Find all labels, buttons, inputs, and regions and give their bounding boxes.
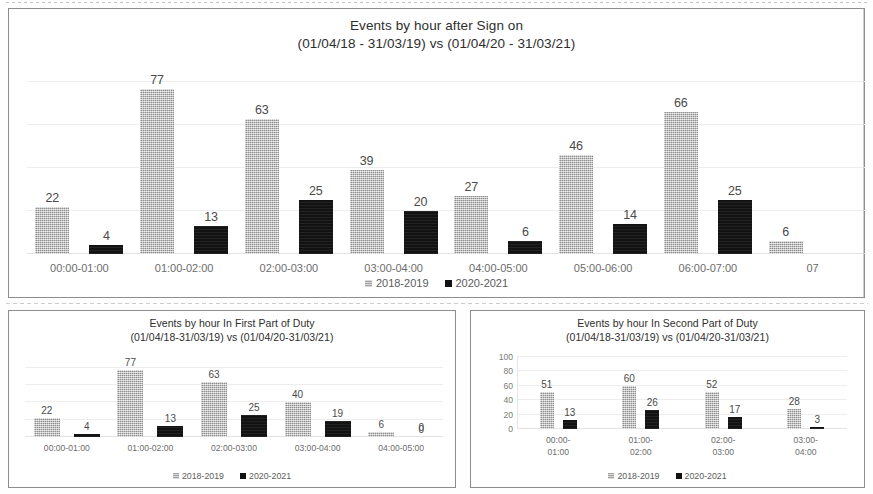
y-axis-tick-label: 0: [491, 424, 513, 434]
bar-series1[interactable]: 77: [140, 89, 174, 254]
clipped-right-edge: [863, 9, 864, 297]
bar-value-label: 4: [84, 421, 90, 432]
bar-value-label: 0: [418, 422, 424, 433]
bar-group: 6325: [192, 359, 276, 437]
bar-series1[interactable]: 39: [350, 170, 384, 254]
scan-artifact-line-middle: [6, 303, 868, 304]
bar-series1[interactable]: 40: [285, 402, 311, 437]
bar-series2[interactable]: 4: [74, 434, 100, 437]
x-axis-category-label: 02:00-03:00: [682, 434, 765, 459]
x-axis-category-label: 03:00-04:00: [341, 262, 446, 274]
bar-value-label: 66: [674, 96, 688, 110]
bar-series1[interactable]: 60: [622, 386, 636, 429]
legend-item-series1[interactable]: 2018-2019: [365, 277, 429, 289]
legend-label-series1: 2018-2019: [182, 471, 224, 481]
x-axis-category-label: 00:00-01:00: [25, 443, 109, 453]
bar-value-label: 3: [814, 414, 820, 425]
bar-series1[interactable]: 51: [540, 392, 554, 429]
bar-series1[interactable]: 63: [245, 119, 279, 254]
bar-value-label: 25: [309, 184, 323, 198]
bar-series2[interactable]: 14: [613, 224, 647, 254]
bar-series1[interactable]: 77: [117, 370, 143, 437]
legend-item-series2[interactable]: 2020-2021: [240, 471, 291, 481]
bar-value-label: 6: [378, 419, 384, 430]
chart-panel-second-part: Events by hour In Second Part of Duty (0…: [470, 310, 865, 488]
bar-series2[interactable]: 3: [810, 427, 824, 429]
bar-group: 4019: [276, 359, 360, 437]
bar-value-label: 13: [165, 413, 176, 424]
bar-value-label: 63: [208, 369, 219, 380]
bar-series2[interactable]: 13: [157, 426, 183, 437]
bar-series1[interactable]: 27: [454, 196, 488, 254]
bar-value-label: 19: [332, 408, 343, 419]
bar-value-label: 14: [623, 208, 637, 222]
legend-swatch-series1-icon: [173, 473, 179, 479]
legend-swatch-series2-icon: [240, 473, 246, 479]
bar-series2[interactable]: 13: [194, 226, 228, 254]
legend-swatch-series1-icon: [365, 280, 372, 287]
bar-series1[interactable]: 6: [769, 241, 803, 254]
bar-value-label: 46: [569, 139, 583, 153]
bar-value-label: 77: [125, 357, 136, 368]
bar-series2[interactable]: 25: [718, 200, 752, 254]
x-axis-category-label: 07: [760, 262, 865, 274]
x-axis-category-label: 01:00-02:00: [600, 434, 683, 459]
chart-title-first-part: Events by hour In First Part of Duty (01…: [9, 311, 455, 345]
bar-series2[interactable]: 19: [325, 421, 351, 437]
y-axis-tick-label: 20: [491, 410, 513, 420]
bar-value-label: 25: [728, 184, 742, 198]
bar-series1[interactable]: 52: [705, 392, 719, 429]
bar-series2[interactable]: 4: [89, 245, 123, 254]
chart-title-second-part-line1: Events by hour In Second Part of Duty: [577, 317, 757, 329]
bar-series1[interactable]: 63: [201, 382, 227, 437]
bar-value-label: 63: [255, 103, 269, 117]
y-axis-tick-label: 100: [491, 352, 513, 362]
bar-value-label: 6: [522, 225, 529, 239]
bar-group: 224: [27, 61, 132, 254]
plot-area-first-part: 22400:00-01:00771301:00-02:00632502:00-0…: [25, 359, 443, 437]
bar-group: 276: [446, 61, 551, 254]
chart-title-main-line1: Events by hour after Sign on: [350, 18, 523, 33]
x-axis-category-label: 02:00-03:00: [192, 443, 276, 453]
bar-group: 5217: [682, 357, 765, 429]
bar-series2[interactable]: 20: [404, 211, 438, 254]
bar-value-label: 4: [103, 229, 110, 243]
bar-series2[interactable]: 13: [563, 420, 577, 429]
chart-title-first-part-line2: (01/04/18-31/03/19) vs (01/04/20-31/03/2…: [9, 331, 455, 345]
x-axis-category-label: 04:00-05:00: [359, 443, 443, 453]
x-axis-category-label: 00:00-01:00: [517, 434, 600, 459]
y-axis-tick-label: 60: [491, 381, 513, 391]
x-axis-category-label: 03:00-04:00: [276, 443, 360, 453]
bar-series1[interactable]: 46: [559, 155, 593, 254]
legend-label-series1: 2018-2019: [617, 471, 659, 481]
legend-item-series1[interactable]: 2018-2019: [608, 471, 659, 481]
x-axis-category-label: 06:00-07:00: [656, 262, 761, 274]
legend-item-series2[interactable]: 2020-2021: [445, 277, 509, 289]
bar-group: 6: [760, 61, 865, 254]
chart-panel-first-part: Events by hour In First Part of Duty (01…: [8, 310, 456, 488]
legend-label-series1: 2018-2019: [376, 277, 429, 289]
bar-group: 283: [765, 357, 848, 429]
bar-series1[interactable]: 28: [787, 409, 801, 429]
bar-series2[interactable]: 17: [728, 417, 742, 429]
x-axis-category-label: 04:00-05:00: [446, 262, 551, 274]
x-axis-category-label: 00:00-01:00: [27, 262, 132, 274]
legend-label-series2: 2020-2021: [249, 471, 291, 481]
bar-series2[interactable]: 6: [508, 241, 542, 254]
legend-item-series2[interactable]: 2020-2021: [676, 471, 727, 481]
bar-series2[interactable]: 26: [645, 410, 659, 429]
y-axis-tick-label: 40: [491, 395, 513, 405]
bar-value-label: 77: [150, 73, 164, 87]
chart-legend-first-part: 2018-2019 2020-2021: [9, 471, 455, 481]
bar-series1[interactable]: 6: [368, 432, 394, 437]
bar-value-label: 52: [706, 379, 717, 390]
chart-title-main: Events by hour after Sign on (01/04/18 -…: [9, 9, 864, 53]
bar-series1[interactable]: 66: [664, 112, 698, 254]
bar-group: 5113: [517, 357, 600, 429]
legend-item-series1[interactable]: 2018-2019: [173, 471, 224, 481]
bar-series2[interactable]: 25: [299, 200, 333, 254]
scan-artifact-line-top: [6, 2, 868, 3]
bar-series2[interactable]: 25: [241, 415, 267, 437]
bar-series1[interactable]: 22: [34, 418, 60, 437]
bar-series1[interactable]: 22: [35, 207, 69, 254]
